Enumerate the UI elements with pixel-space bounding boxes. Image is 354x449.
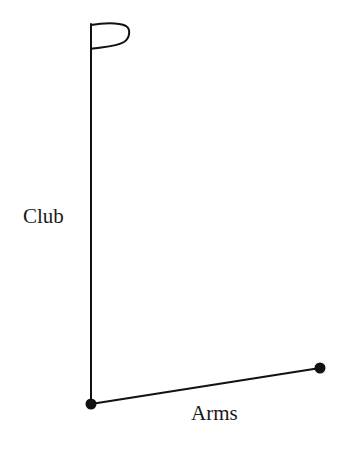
shoulder-pivot-dot [86, 399, 97, 410]
club-label: Club [23, 204, 64, 228]
arms-label: Arms [191, 401, 238, 425]
hand-joint-dot [315, 363, 326, 374]
flag-icon [91, 23, 129, 49]
arms-line [91, 368, 320, 404]
club-arms-diagram: Club Arms [0, 0, 354, 449]
